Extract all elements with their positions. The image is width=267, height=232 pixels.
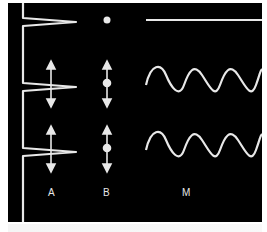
dot-with-arrows-icon	[103, 61, 111, 107]
sine-wave	[146, 67, 262, 91]
figure-drawing	[8, 3, 262, 222]
column-label-b: B	[103, 187, 110, 198]
column-label-a: A	[48, 187, 55, 198]
dot-icon	[104, 17, 111, 24]
sine-wave	[146, 132, 262, 156]
figure-panel: A B M	[8, 3, 262, 222]
figure-caption	[8, 224, 262, 232]
column-label-m: M	[182, 187, 190, 198]
dot-with-arrows-icon	[103, 126, 111, 172]
